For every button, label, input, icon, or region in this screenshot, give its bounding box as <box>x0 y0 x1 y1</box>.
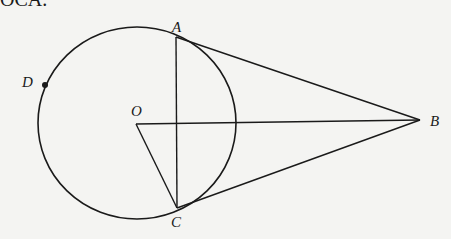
label-d: D <box>22 75 33 90</box>
segment-ab <box>176 37 420 120</box>
point-d-dot <box>42 82 48 88</box>
label-c: C <box>171 215 181 230</box>
label-b: B <box>430 114 439 129</box>
geometry-figure: OCA. A B C O D <box>0 0 451 239</box>
segment-ob <box>136 120 420 124</box>
segment-oc <box>136 124 177 208</box>
label-o: O <box>131 104 142 119</box>
label-a: A <box>172 20 181 35</box>
segment-ac <box>176 37 177 208</box>
segment-cb <box>177 120 420 208</box>
figure-canvas <box>0 0 451 239</box>
